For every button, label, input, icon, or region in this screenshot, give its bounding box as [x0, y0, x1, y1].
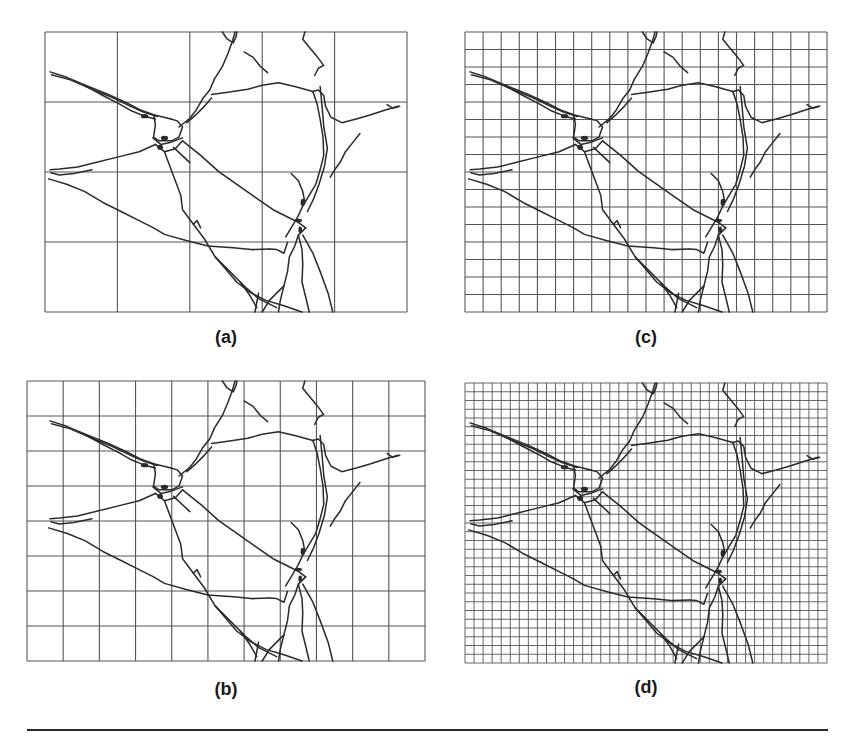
panel-label-b: (b)	[215, 679, 238, 700]
panel-b	[27, 381, 425, 661]
grid-fracture-map-d	[465, 383, 827, 663]
grid-fracture-map-a	[45, 32, 407, 312]
grid-fracture-map-c	[465, 32, 827, 312]
bottom-rule	[27, 729, 828, 731]
panel-label-c: (c)	[635, 327, 657, 348]
grid-fracture-map-b	[27, 381, 425, 661]
panel-label-a: (a)	[215, 327, 237, 348]
panel-d	[465, 383, 827, 663]
panel-c	[465, 32, 827, 312]
panel-label-d: (d)	[635, 677, 658, 698]
panel-a	[45, 32, 407, 312]
